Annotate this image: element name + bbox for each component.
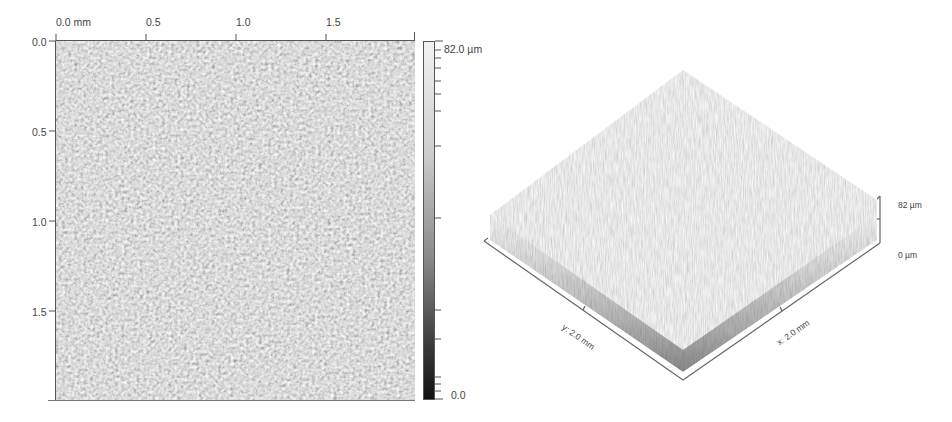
z-min-label: 0 µm (898, 250, 917, 260)
surface-3d-plot (470, 40, 952, 400)
colorbar-min-label: 0.0 (451, 389, 466, 401)
z-max-label: 82 µm (898, 200, 922, 210)
colorbar-ticks (434, 38, 448, 404)
height-map-image (56, 41, 415, 400)
